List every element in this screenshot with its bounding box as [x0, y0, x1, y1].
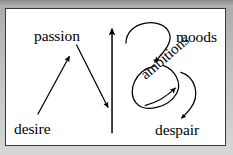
node-label-desire: desire	[14, 121, 50, 137]
arrow-ambitions-to-despair	[180, 72, 195, 118]
arrow-passion-down	[76, 44, 108, 107]
diagram-frame: passion desire moods ambitions despair	[5, 8, 226, 146]
node-label-passion: passion	[34, 28, 80, 44]
node-label-despair: despair	[155, 122, 199, 138]
arrow-despair-to-ambitions	[145, 88, 176, 106]
figure-background: passion desire moods ambitions despair	[0, 0, 233, 155]
arrow-desire-to-passion	[38, 56, 70, 114]
